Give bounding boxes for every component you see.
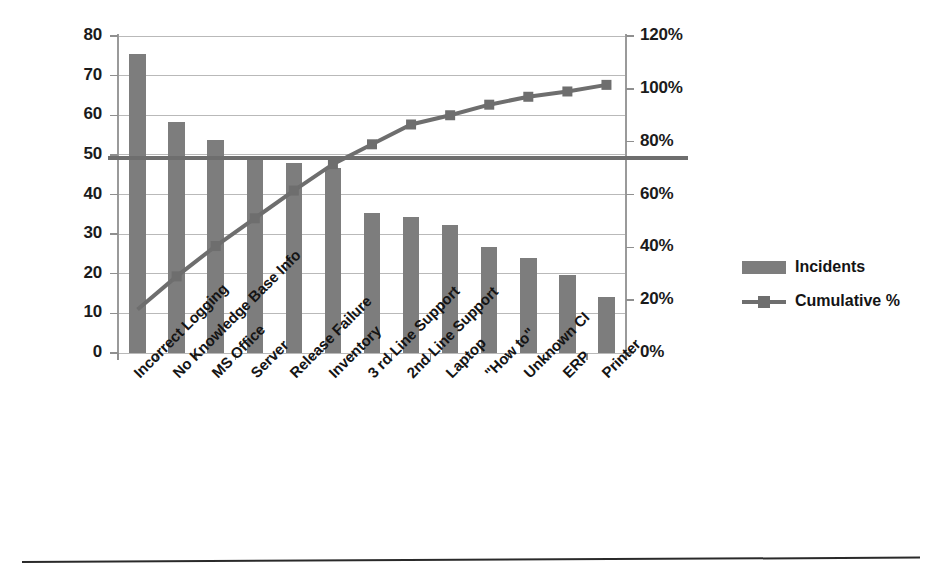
category-label: Printer xyxy=(598,335,644,381)
bar-swatch-icon xyxy=(742,261,786,274)
pareto-chart-figure: 01020304050607080 0%20%40%60%80%100%120%… xyxy=(0,0,941,577)
legend-label-incidents: Incidents xyxy=(795,258,865,276)
legend-item-cumulative: Cumulative % xyxy=(742,284,932,318)
category-label: Unknown CI xyxy=(520,308,593,381)
chart-legend: Incidents Cumulative % xyxy=(742,250,932,318)
category-label: ERP xyxy=(559,347,593,381)
line-square-swatch-icon xyxy=(742,295,786,308)
legend-label-cumulative: Cumulative % xyxy=(795,292,900,310)
legend-item-incidents: Incidents xyxy=(742,250,932,284)
